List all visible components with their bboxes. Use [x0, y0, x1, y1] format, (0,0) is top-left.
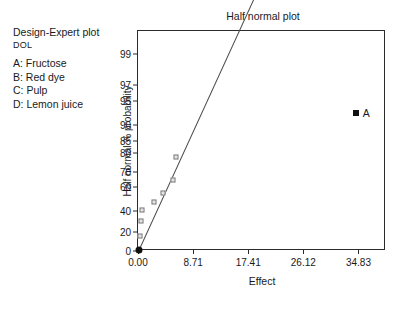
y-tick-label: 20 [82, 226, 138, 237]
plot-area: Half normal % probability Effect 0204060… [137, 30, 385, 250]
y-tick-label: 85 [82, 135, 138, 146]
data-point[interactable] [353, 110, 359, 116]
x-tick-label: 34.83 [346, 257, 371, 268]
y-tick-label: 70 [82, 166, 138, 177]
data-point[interactable] [171, 177, 176, 182]
y-tick-mark [133, 54, 138, 55]
x-tick-label: 8.71 [183, 257, 202, 268]
y-tick-label: 95 [82, 96, 138, 107]
x-axis-label: Effect [138, 275, 386, 287]
y-tick-mark [133, 186, 138, 187]
data-point[interactable] [173, 155, 178, 160]
y-tick-label: 90 [82, 120, 138, 131]
y-tick-label: 60 [82, 181, 138, 192]
x-tick-label: 26.12 [291, 257, 316, 268]
fit-line [139, 0, 254, 250]
y-tick-mark [133, 140, 138, 141]
x-tick-mark [248, 249, 249, 254]
y-tick-label: 40 [82, 205, 138, 216]
data-point[interactable] [138, 233, 143, 238]
y-tick-label: 99 [82, 49, 138, 60]
y-tick-label: 80 [82, 148, 138, 159]
x-tick-mark [358, 249, 359, 254]
y-tick-label: 97 [82, 80, 138, 91]
data-point[interactable] [152, 199, 157, 204]
y-tick-mark [133, 85, 138, 86]
y-tick-mark [133, 171, 138, 172]
y-tick-mark [133, 125, 138, 126]
y-tick-mark [133, 231, 138, 232]
y-tick-mark [133, 153, 138, 154]
y-tick-mark [133, 210, 138, 211]
data-point[interactable] [135, 246, 142, 253]
data-point[interactable] [138, 218, 143, 223]
data-point[interactable] [139, 207, 144, 212]
data-point-label: A [363, 107, 370, 119]
x-tick-label: 17.41 [236, 257, 261, 268]
y-tick-label: 0 [82, 246, 138, 257]
y-tick-mark [133, 101, 138, 102]
x-tick-mark [193, 249, 194, 254]
legend-title: Design-Expert plot [13, 26, 99, 40]
data-point[interactable] [161, 191, 166, 196]
x-tick-label: 0.00 [128, 257, 147, 268]
x-tick-mark [303, 249, 304, 254]
chart-title: Half normal plot [137, 10, 389, 22]
